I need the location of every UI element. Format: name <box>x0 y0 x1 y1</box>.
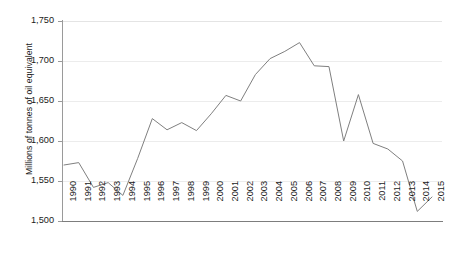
x-tick-label: 2015 <box>436 181 446 227</box>
x-tick-label: 2006 <box>304 181 314 227</box>
x-tick-label: 2013 <box>407 181 417 227</box>
x-tick-label: 2000 <box>215 181 225 227</box>
y-tick-label: 1,650 <box>14 95 54 105</box>
x-tick-label: 1996 <box>156 181 166 227</box>
x-tick-label: 2012 <box>392 181 402 227</box>
x-tick-label: 1991 <box>83 181 93 227</box>
x-tick-label: 2005 <box>289 181 299 227</box>
x-tick-label: 1995 <box>142 181 152 227</box>
x-tick-label: 2010 <box>362 181 372 227</box>
x-tick-label: 2014 <box>421 181 431 227</box>
x-tick-label: 1999 <box>201 181 211 227</box>
x-tick-label: 2008 <box>333 181 343 227</box>
line-chart: Millions of tonnes of oil equivalent 1,5… <box>0 0 451 269</box>
x-tick-label: 1990 <box>68 181 78 227</box>
x-tick-label: 2001 <box>230 181 240 227</box>
x-tick-label: 1992 <box>97 181 107 227</box>
x-tick-label: 1994 <box>127 181 137 227</box>
y-tick-label: 1,500 <box>14 215 54 225</box>
x-tick-label: 2007 <box>318 181 328 227</box>
x-tick-label: 1998 <box>186 181 196 227</box>
x-tick-label: 2002 <box>245 181 255 227</box>
x-tick-label: 1997 <box>171 181 181 227</box>
x-tick-label: 1993 <box>112 181 122 227</box>
x-tick-label: 2004 <box>274 181 284 227</box>
y-tick-label: 1,600 <box>14 135 54 145</box>
x-tick-label: 2011 <box>377 181 387 227</box>
x-tick-label: 2009 <box>348 181 358 227</box>
x-tick-label: 2003 <box>259 181 269 227</box>
y-tick-label: 1,550 <box>14 175 54 185</box>
y-tick-label: 1,750 <box>14 15 54 25</box>
y-tick-label: 1,700 <box>14 55 54 65</box>
